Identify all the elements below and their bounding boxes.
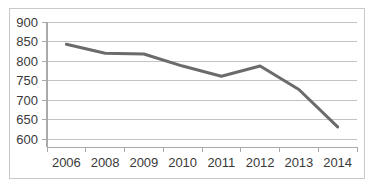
y-tick-label: 900 <box>16 15 38 30</box>
y-tick-group <box>42 22 47 139</box>
y-tick-label: 600 <box>16 132 38 147</box>
y-tick-label: 800 <box>16 54 38 69</box>
line-chart: 600650700750800850900 200620082009201020… <box>10 9 364 178</box>
chart-plot-frame: 600650700750800850900 200620082009201020… <box>9 8 365 179</box>
x-tick-label: 2008 <box>91 155 120 170</box>
y-tick-label: 650 <box>16 112 38 127</box>
x-tick-label: 2011 <box>207 155 235 170</box>
chart-figure: 600650700750800850900 200620082009201020… <box>0 0 376 190</box>
y-tick-label: 750 <box>16 73 38 88</box>
x-tick-label: 2012 <box>246 155 275 170</box>
x-tick-label: 2006 <box>52 155 81 170</box>
x-tick-label: 2013 <box>284 155 313 170</box>
x-tick-label: 2010 <box>168 155 197 170</box>
y-tick-label: 850 <box>16 34 38 49</box>
gridline-group <box>47 22 357 139</box>
x-tick-label: 2014 <box>323 155 352 170</box>
data-series-line-group <box>66 44 337 127</box>
x-tick-group <box>47 147 357 152</box>
x-tick-label: 2009 <box>129 155 158 170</box>
data-series-line <box>66 44 337 127</box>
y-tick-label: 700 <box>16 93 38 108</box>
x-tick-label-group: 20062008200920102011201220132014 <box>52 155 352 170</box>
y-tick-label-group: 600650700750800850900 <box>16 15 38 147</box>
